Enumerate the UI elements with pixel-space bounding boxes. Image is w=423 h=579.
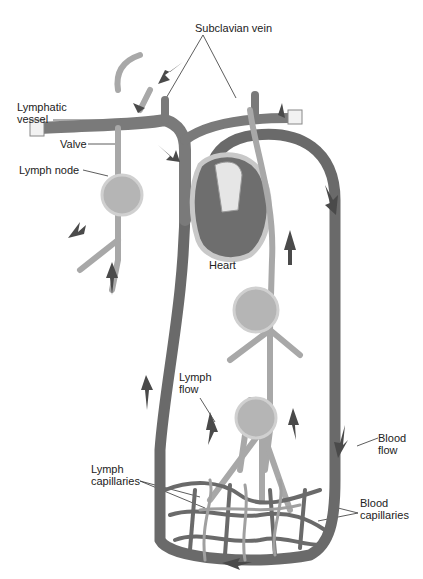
- label-lymphatic-vessel-line1: Lymphatic: [17, 101, 67, 113]
- label-lymph-flow: Lymph flow: [179, 371, 212, 395]
- label-lymph-capillaries-line2: capillaries: [91, 475, 140, 487]
- arrow-lymph-up-right: [284, 230, 296, 265]
- label-lymphatic-vessel-line2: vessel: [17, 113, 67, 125]
- label-lymph-flow-line2: flow: [179, 383, 212, 395]
- label-lymph-capillaries-line1: Lymph: [91, 463, 140, 475]
- arrow-top-left: [158, 62, 183, 84]
- label-subclavian-vein: Subclavian vein: [195, 22, 272, 34]
- label-blood-capillaries: Blood capillaries: [360, 497, 409, 521]
- arrow-node-left-out: [68, 222, 86, 238]
- arrow-subclavian-down: [158, 145, 180, 162]
- lymphatic-system-diagram: [0, 0, 423, 579]
- label-lymph-flow-line1: Lymph: [179, 371, 212, 383]
- label-blood-flow: Blood flow: [378, 432, 406, 456]
- label-blood-capillaries-line1: Blood: [360, 497, 409, 509]
- label-valve: Valve: [60, 138, 87, 150]
- lymph-node-lower: [236, 398, 276, 438]
- lymph-node-middle: [234, 288, 278, 332]
- label-blood-flow-line1: Blood: [378, 432, 406, 444]
- label-lymph-node: Lymph node: [19, 164, 79, 176]
- heart-shape: [192, 155, 269, 260]
- label-heart: Heart: [209, 259, 236, 271]
- label-blood-flow-line2: flow: [378, 444, 406, 456]
- arrow-lymph-flow-2: [288, 408, 299, 440]
- lymph-node-upper-left: [102, 175, 142, 215]
- label-blood-capillaries-line2: capillaries: [360, 509, 409, 521]
- label-lymphatic-vessel: Lymphatic vessel: [17, 101, 67, 125]
- arrow-blood-up-left: [141, 375, 153, 410]
- label-lymph-capillaries: Lymph capillaries: [91, 463, 140, 487]
- leader-lines: [53, 35, 378, 521]
